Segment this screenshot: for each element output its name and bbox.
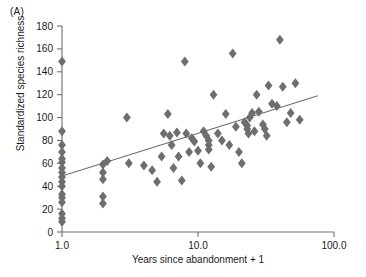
y-tick-label: 0 [47, 227, 53, 238]
data-point [235, 147, 243, 157]
data-point [229, 48, 237, 58]
data-point [125, 158, 133, 168]
data-point [153, 177, 161, 187]
y-axis-ticks: 020406080100120140160180 [36, 21, 62, 238]
data-point [148, 165, 156, 175]
data-point [58, 56, 66, 66]
data-point [99, 198, 107, 208]
figure-panel: (A) Standardized species richness Years … [0, 0, 366, 277]
y-tick-label: 100 [36, 112, 53, 123]
y-tick-label: 20 [42, 204, 54, 215]
data-point [276, 35, 284, 45]
data-point [291, 78, 299, 88]
y-tick-label: 140 [36, 66, 53, 77]
data-point [140, 161, 148, 171]
data-point [296, 115, 304, 125]
y-tick-label: 60 [42, 158, 54, 169]
data-point [238, 158, 246, 168]
x-tick-label: 10.0 [188, 240, 208, 251]
data-points [58, 35, 304, 227]
x-tick-label: 100.0 [321, 240, 346, 251]
data-point [123, 113, 131, 123]
data-point [181, 56, 189, 66]
y-tick-label: 120 [36, 89, 53, 100]
data-point [210, 90, 218, 100]
y-tick-label: 180 [36, 21, 53, 32]
data-point [58, 126, 66, 136]
data-point [175, 151, 183, 161]
data-point [287, 108, 295, 118]
data-point [160, 129, 168, 139]
scatter-plot: 020406080100120140160180 1.010.0100.0 [0, 0, 366, 277]
data-point [218, 135, 226, 145]
data-point [194, 146, 202, 156]
data-point [196, 158, 204, 168]
data-point [279, 82, 287, 92]
data-point [283, 117, 291, 127]
data-point [158, 151, 166, 161]
data-point [225, 140, 233, 150]
data-point [173, 127, 181, 137]
data-point [185, 147, 193, 157]
data-point [232, 122, 240, 132]
data-point [178, 176, 186, 186]
data-point [265, 81, 273, 91]
data-point [170, 163, 178, 173]
data-point [164, 109, 172, 119]
y-tick-label: 40 [42, 181, 54, 192]
x-tick-label: 1.0 [55, 240, 69, 251]
y-tick-label: 160 [36, 43, 53, 54]
y-tick-label: 80 [42, 135, 54, 146]
data-point [251, 126, 259, 136]
data-point [214, 129, 222, 139]
x-axis-ticks: 1.010.0100.0 [55, 232, 347, 251]
data-point [99, 174, 107, 184]
data-point [166, 131, 174, 141]
data-point [253, 90, 261, 100]
data-point [222, 109, 230, 119]
regression-line [62, 96, 318, 176]
data-point [207, 162, 215, 172]
